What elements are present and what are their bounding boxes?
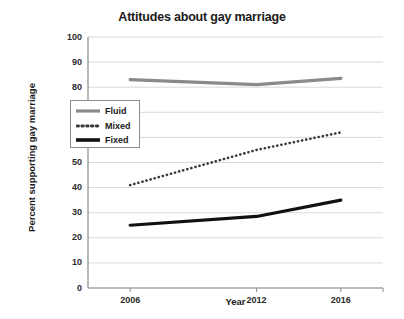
y-tick-label: 50 [52,158,82,167]
y-tick-label: 10 [52,258,82,267]
x-tick-label: 2012 [227,296,287,305]
chart-container: Attitudes about gay marriage Percent sup… [0,0,404,319]
series-line-mixed [130,132,341,185]
legend-label-fluid: Fluid [105,107,127,116]
y-tick-label: 100 [52,33,82,42]
legend-label-fixed: Fixed [105,136,129,145]
legend-swatch-mixed [76,119,100,133]
x-tick-label: 2016 [311,296,371,305]
y-tick-label: 80 [52,83,82,92]
legend: Fluid Mixed Fixed [70,100,140,148]
legend-item-fixed: Fixed [71,132,141,148]
legend-swatch-fixed [76,133,100,147]
legend-label-mixed: Mixed [105,122,131,131]
series-lines [130,78,341,225]
series-line-fluid [130,78,341,84]
y-tick-label: 90 [52,58,82,67]
x-tick-label: 2006 [100,296,160,305]
y-tick-label: 30 [52,208,82,217]
y-tick-label: 40 [52,183,82,192]
y-tick-label: 0 [52,284,82,293]
legend-item-fluid: Fluid [71,103,141,119]
y-tick-label: 20 [52,233,82,242]
legend-swatch-fluid [76,104,100,118]
gridlines [88,37,383,288]
